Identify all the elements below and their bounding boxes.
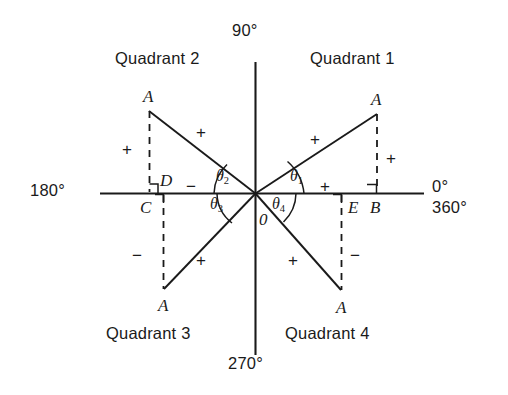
q4-hypotenuse xyxy=(256,194,342,291)
theta2-symbol: θ xyxy=(216,167,224,184)
sign-q2-horizontal: − xyxy=(186,178,196,195)
axis-label-270: 270° xyxy=(228,355,263,372)
quadrant-diagram: Quadrant 2 Quadrant 1 Quadrant 3 Quadran… xyxy=(0,0,508,395)
sign-q3-hypotenuse: + xyxy=(196,252,206,269)
theta4-arc xyxy=(284,194,297,223)
sign-q4-hypotenuse: + xyxy=(288,252,298,269)
quadrant-3-label: Quadrant 3 xyxy=(106,325,191,342)
angle-label-theta3: θ3 xyxy=(210,196,223,212)
point-label-c: C xyxy=(140,199,151,216)
point-label-a-q3: A xyxy=(158,297,168,314)
quadrant-1-label: Quadrant 1 xyxy=(310,50,395,67)
q2-right-angle-mark xyxy=(150,184,159,193)
theta3-symbol: θ xyxy=(210,195,218,212)
theta3-subscript: 3 xyxy=(218,203,223,214)
q1-right-angle-mark xyxy=(367,185,377,194)
axis-label-360: 360° xyxy=(432,199,467,216)
sign-q1-hypotenuse: + xyxy=(310,131,320,148)
axis-label-0: 0° xyxy=(432,178,448,195)
point-label-a-q1: A xyxy=(371,91,381,108)
point-label-e: E xyxy=(348,199,358,216)
theta1-symbol: θ xyxy=(290,167,298,184)
theta4-subscript: 4 xyxy=(280,203,285,214)
sign-q1-vertical: + xyxy=(386,150,396,167)
q1-hypotenuse xyxy=(256,114,378,194)
q4-right-angle-mark xyxy=(333,195,342,204)
quadrant-4-label: Quadrant 4 xyxy=(285,325,370,342)
point-label-origin: 0 xyxy=(259,211,268,228)
theta2-subscript: 2 xyxy=(224,175,229,186)
sign-q1-horizontal: + xyxy=(320,178,330,195)
point-label-b: B xyxy=(370,199,380,216)
angle-label-theta1: θ1 xyxy=(290,168,303,184)
quadrant-2-label: Quadrant 2 xyxy=(115,50,200,67)
axis-label-180: 180° xyxy=(30,182,65,199)
sign-q3-vertical: − xyxy=(132,247,142,264)
angle-label-theta4: θ4 xyxy=(272,196,285,212)
point-label-d: D xyxy=(160,172,172,189)
q3-right-angle-mark xyxy=(155,195,164,204)
theta4-symbol: θ xyxy=(272,195,280,212)
axis-label-90: 90° xyxy=(232,22,258,39)
point-label-a-q2: A xyxy=(143,88,153,105)
point-label-a-q4: A xyxy=(336,299,346,316)
sign-q2-hypotenuse: + xyxy=(196,124,206,141)
sign-q2-vertical: + xyxy=(122,141,132,158)
theta1-subscript: 1 xyxy=(298,175,303,186)
sign-q4-vertical: − xyxy=(350,247,360,264)
angle-label-theta2: θ2 xyxy=(216,168,229,184)
